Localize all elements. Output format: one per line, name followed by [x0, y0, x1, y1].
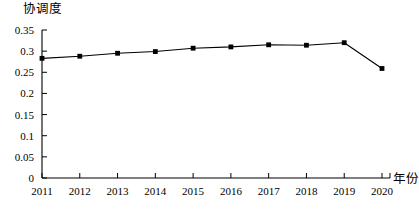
x-tick-label: 2020 — [371, 186, 393, 197]
y-tick-label: 0.05 — [0, 151, 34, 162]
x-tick-label: 2011 — [31, 186, 53, 197]
chart-plot-area — [0, 0, 419, 212]
y-tick-label: 0 — [0, 173, 34, 184]
y-tick-label: 0.1 — [0, 130, 34, 141]
x-axis-title: 年份 — [393, 173, 419, 186]
x-tick-label: 2017 — [258, 186, 280, 197]
y-axis-title: 协调度 — [23, 3, 62, 16]
x-tick-label: 2012 — [69, 186, 91, 197]
chart-tick-marks — [42, 30, 390, 178]
x-tick-label: 2018 — [295, 186, 317, 197]
y-tick-label: 0.3 — [0, 46, 34, 57]
y-tick-label: 0.35 — [0, 25, 34, 36]
x-tick-label: 2014 — [144, 186, 166, 197]
chart-axes — [42, 30, 390, 178]
y-tick-label: 0.2 — [0, 88, 34, 99]
line-chart-figure: 协调度 年份 00.050.10.150.20.250.30.35 201120… — [0, 0, 419, 212]
x-tick-label: 2013 — [107, 186, 129, 197]
x-tick-label: 2019 — [333, 186, 355, 197]
x-tick-label: 2015 — [182, 186, 204, 197]
y-tick-label: 0.15 — [0, 109, 34, 120]
chart-series-line — [42, 43, 382, 69]
x-tick-label: 2016 — [220, 186, 242, 197]
y-tick-label: 0.25 — [0, 67, 34, 78]
